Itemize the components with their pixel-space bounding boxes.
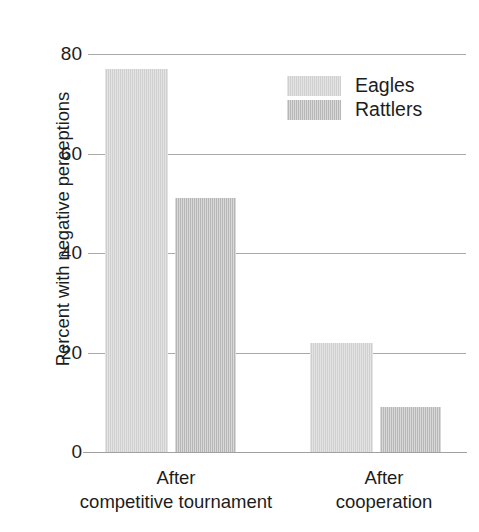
legend-label: Eagles [355, 76, 415, 96]
x-axis-category-label: After competitive tournament [58, 466, 294, 513]
x-axis-category-line1: After [296, 466, 472, 490]
y-tick-label: 60 [38, 144, 82, 163]
bar-rattlers-1 [380, 407, 441, 452]
x-axis-category-line2: cooperation [296, 490, 472, 514]
y-tick-label: 20 [38, 343, 82, 362]
bar-eagles-1 [310, 343, 373, 452]
x-axis-category-line1: After [58, 466, 294, 490]
x-axis-category-label: After cooperation [296, 466, 472, 513]
bar-chart: Percent with negative perceptions 80 60 … [0, 0, 479, 532]
gridline [83, 452, 467, 453]
legend-swatch-icon [287, 76, 341, 96]
bar-eagles-0 [105, 69, 168, 452]
y-axis-tick-labels: 80 60 40 20 0 [30, 54, 82, 452]
y-tick-label: 40 [38, 243, 82, 262]
legend: Eagles Rattlers [287, 74, 422, 122]
legend-swatch-icon [287, 100, 341, 120]
legend-label: Rattlers [355, 100, 422, 120]
x-axis-category-line2: competitive tournament [58, 490, 294, 514]
legend-item-eagles: Eagles [287, 74, 422, 98]
legend-item-rattlers: Rattlers [287, 98, 422, 122]
bar-rattlers-0 [175, 198, 236, 452]
y-tick-label: 80 [38, 44, 82, 63]
y-tick-label: 0 [38, 442, 82, 461]
gridline [88, 54, 466, 55]
